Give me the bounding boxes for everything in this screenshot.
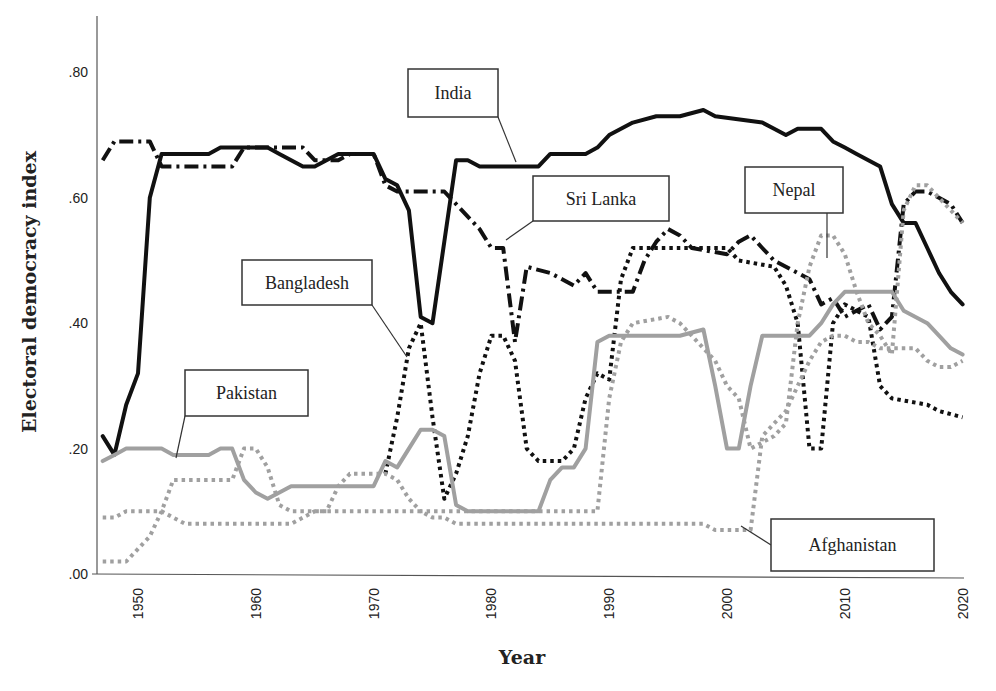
series-line-bangladesh: [385, 248, 962, 499]
x-tick-label: 1950: [130, 588, 146, 619]
callout-sri-lanka: Sri Lanka: [506, 176, 669, 240]
x-tick-label: 2010: [837, 588, 853, 619]
callout-leader-line: [372, 305, 407, 357]
line-chart: .00.20.40.60.80 195019601970198019902000…: [0, 0, 996, 691]
x-tick-label: 1960: [248, 588, 264, 619]
x-tick-label: 2020: [955, 588, 971, 619]
callout-label: Pakistan: [216, 383, 277, 403]
x-axis-title: Year: [498, 646, 546, 668]
callout-label: Afghanistan: [809, 535, 897, 555]
y-tick-label: .80: [69, 64, 89, 80]
y-tick-label: .00: [69, 566, 89, 582]
callout-labels: IndiaSri LankaNepalBangladeshPakistanAfg…: [176, 69, 934, 571]
callout-pakistan: Pakistan: [176, 370, 308, 458]
x-tick-labels: 19501960197019801990200020102020: [130, 588, 971, 619]
callout-label: India: [435, 83, 472, 103]
callout-leader-line: [506, 221, 533, 240]
callout-leader-line: [741, 526, 771, 545]
callout-label: Nepal: [773, 180, 816, 200]
y-tick-label: .40: [69, 315, 89, 331]
callout-bangladesh: Bangladesh: [242, 260, 407, 357]
callout-afghanistan: Afghanistan: [741, 519, 934, 571]
y-axis-title: Electoral democracy index: [18, 150, 40, 433]
y-tick-label: .60: [69, 190, 89, 206]
series-line-afghanistan: [103, 336, 963, 530]
callout-india: India: [408, 69, 516, 162]
x-tick-label: 1990: [601, 588, 617, 619]
y-tick-labels: .00.20.40.60.80: [69, 64, 89, 582]
x-tick-label: 1970: [366, 588, 382, 619]
y-tick-label: .20: [69, 441, 89, 457]
callout-label: Sri Lanka: [566, 189, 636, 209]
callout-leader-line: [498, 117, 516, 162]
callout-leader-line: [176, 416, 185, 458]
x-tick-label: 1980: [483, 588, 499, 619]
callout-label: Bangladesh: [265, 273, 349, 293]
axes: [92, 16, 964, 578]
x-tick-label: 2000: [719, 588, 735, 619]
x-axis-line: [92, 574, 964, 578]
